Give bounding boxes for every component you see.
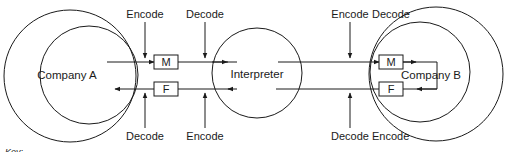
- left-f-box: F: [154, 82, 178, 96]
- svg-text:Decode: Decode: [186, 8, 224, 20]
- svg-text:Encode: Encode: [372, 130, 409, 142]
- company-b-node: Company B: [369, 7, 503, 141]
- top-decode-b: Decode: [372, 8, 410, 20]
- svg-text:Decode: Decode: [372, 8, 410, 20]
- right-f-box: F: [379, 82, 403, 96]
- right-m-box: M: [379, 55, 403, 69]
- bottom-decode-interp-right: Decode: [331, 93, 369, 142]
- svg-text:F: F: [163, 83, 170, 95]
- svg-text:Decode: Decode: [331, 130, 369, 142]
- svg-text:Encode: Encode: [186, 130, 223, 142]
- bottom-encode-b: Encode: [372, 130, 409, 142]
- svg-text:Decode: Decode: [126, 130, 164, 142]
- left-m-box: M: [154, 55, 178, 69]
- top-encode-interp-right: Encode: [331, 8, 368, 58]
- svg-text:M: M: [386, 56, 395, 68]
- communication-diagram: Company A Interpreter Company B M F: [0, 0, 508, 152]
- svg-text:F: F: [388, 83, 395, 95]
- company-b-label: Company B: [401, 69, 461, 81]
- svg-text:M: M: [161, 56, 170, 68]
- svg-text:Encode: Encode: [331, 8, 368, 20]
- company-a-node: Company A: [4, 10, 138, 142]
- svg-text:Encode: Encode: [126, 8, 163, 20]
- key-label: Key:: [5, 147, 24, 152]
- interpreter-label: Interpreter: [230, 68, 283, 80]
- interpreter-node: Interpreter: [212, 28, 302, 118]
- bottom-encode-interp-left: Encode: [186, 93, 223, 142]
- company-a-label: Company A: [37, 69, 97, 81]
